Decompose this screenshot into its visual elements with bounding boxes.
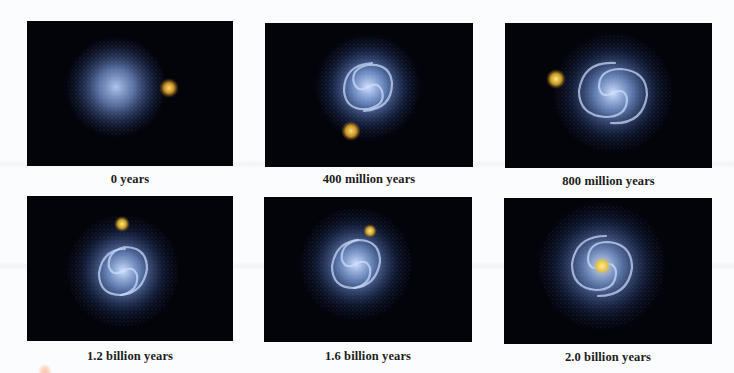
simulation-panel-2-0-billion-years (504, 198, 712, 344)
merged-galaxy-icon (504, 198, 712, 344)
simulation-panel-1-2-billion-years (27, 196, 233, 341)
spiral-galaxy-icon (265, 23, 473, 167)
panel-caption: 1.2 billion years (27, 349, 233, 364)
panel-caption: 800 million years (505, 174, 712, 189)
simulation-panel-400-million-years (265, 23, 473, 167)
simulation-panel-0-years (27, 21, 233, 166)
panel-caption: 2.0 billion years (504, 350, 712, 365)
panel-caption: 0 years (27, 172, 233, 187)
spiral-galaxy-icon (27, 196, 233, 341)
page-edge-mark (38, 364, 52, 373)
galaxy-diffuse-icon (27, 21, 233, 166)
panel-caption: 400 million years (265, 172, 473, 187)
spiral-galaxy-icon (505, 23, 712, 168)
panel-caption: 1.6 billion years (264, 349, 472, 364)
spiral-galaxy-icon (264, 197, 472, 342)
simulation-panel-1-6-billion-years (264, 197, 472, 342)
simulation-panel-800-million-years (505, 23, 712, 168)
